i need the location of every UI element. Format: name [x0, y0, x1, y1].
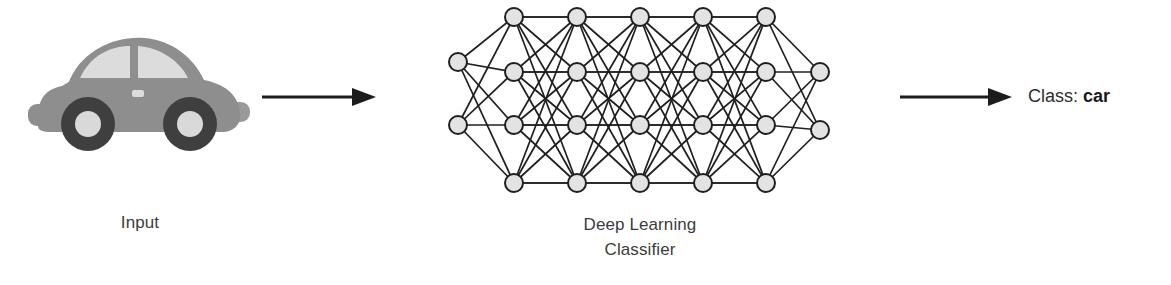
neural-network-diagram: [440, 2, 840, 204]
network-node: [568, 8, 586, 26]
network-node: [631, 174, 649, 192]
network-edge: [766, 17, 820, 72]
network-edge: [766, 130, 820, 183]
network-node: [811, 121, 829, 139]
arrow-right-icon: [898, 82, 1014, 112]
network-node: [694, 63, 712, 81]
network-node: [694, 116, 712, 134]
network-node: [449, 116, 467, 134]
network-edges: [458, 17, 820, 183]
network-node: [811, 63, 829, 81]
network-node: [568, 116, 586, 134]
network-node: [505, 174, 523, 192]
network-node: [505, 63, 523, 81]
network-node: [757, 8, 775, 26]
network-node: [757, 63, 775, 81]
car-icon: [28, 28, 250, 158]
network-node: [757, 174, 775, 192]
network-node: [568, 63, 586, 81]
network-node: [505, 116, 523, 134]
figure-canvas: Input Deep Learning Classifier Class: ca…: [0, 0, 1171, 285]
input-image: [28, 28, 250, 158]
model-caption: Deep Learning Classifier: [500, 212, 780, 262]
output-class-label: Class: car: [1028, 84, 1110, 108]
network-node: [694, 174, 712, 192]
output-class-prefix: Class:: [1028, 86, 1078, 106]
network-edge: [458, 17, 514, 62]
network-node: [631, 8, 649, 26]
network-node: [568, 174, 586, 192]
output-class-value: car: [1083, 86, 1110, 106]
network-node: [631, 63, 649, 81]
input-caption: Input: [40, 210, 240, 235]
network-node: [631, 116, 649, 134]
network-node: [449, 53, 467, 71]
network-edge: [458, 125, 514, 183]
network-node: [757, 116, 775, 134]
network-node: [694, 8, 712, 26]
network-graph: [440, 2, 840, 204]
arrow-right-icon: [260, 82, 378, 112]
network-node: [505, 8, 523, 26]
